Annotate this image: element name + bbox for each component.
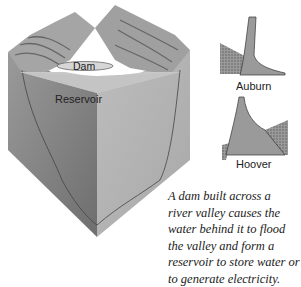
auburn-dam-profile: [220, 17, 285, 75]
dam-label: Dam: [73, 60, 95, 72]
hoover-dam-profile: [222, 97, 288, 160]
hoover-label: Hoover: [236, 158, 271, 170]
caption-line: A dam built across a: [168, 188, 298, 205]
reservoir-label: Reservoir: [55, 93, 102, 105]
caption-line: the valley and form a: [168, 238, 298, 255]
auburn-label: Auburn: [236, 80, 271, 92]
figure-caption: A dam built across a river valley causes…: [168, 188, 298, 287]
caption-line: water behind it to flood: [168, 221, 298, 238]
caption-line: reservoir to store water or: [168, 254, 298, 271]
caption-line: to generate electricity.: [168, 271, 298, 287]
caption-line: river valley causes the: [168, 205, 298, 222]
